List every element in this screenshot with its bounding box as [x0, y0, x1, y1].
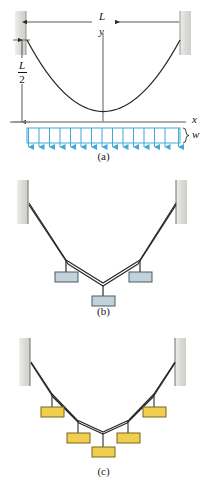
load-block — [67, 433, 90, 443]
wall-right — [175, 338, 186, 386]
wall-right — [176, 180, 187, 224]
x-axis-label: x — [192, 113, 197, 125]
sag-label: L 2 — [12, 60, 32, 85]
load-block — [117, 433, 140, 443]
panel-b-caption: (b) — [0, 305, 207, 317]
load-label: w — [192, 128, 199, 140]
panel-c-caption: (c) — [0, 465, 207, 477]
load-block — [92, 447, 115, 457]
cable-strand-upper — [29, 203, 176, 283]
panel-b-drawing — [0, 165, 207, 320]
panel-b: (b) — [0, 165, 207, 320]
panel-c: (c) — [0, 320, 207, 488]
wall-left — [17, 180, 28, 224]
wall-left — [15, 11, 26, 55]
panel-c-drawing — [0, 320, 207, 488]
sag-numerator: L — [12, 60, 32, 71]
cable-strand-lower — [29, 205, 176, 286]
distributed-load — [27, 128, 189, 147]
load-block — [55, 272, 78, 282]
panel-a-caption: (a) — [0, 150, 207, 162]
panel-a: L y x L 2 w (a) — [0, 0, 207, 165]
cable-strand-lower — [31, 363, 175, 434]
load-block — [41, 407, 64, 417]
load-block — [143, 407, 166, 417]
load-block — [129, 272, 152, 282]
y-axis-label: y — [99, 25, 104, 37]
sag-denominator: 2 — [12, 74, 32, 85]
wall-right — [180, 11, 191, 55]
span-label: L — [99, 10, 105, 22]
wall-left — [19, 338, 30, 386]
